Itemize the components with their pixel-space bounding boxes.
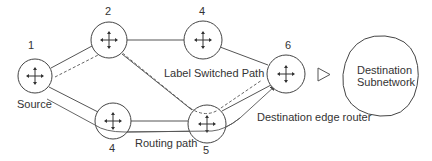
destination-subnetwork-label-line2: Subnetwork [357, 77, 415, 88]
forward-triangle-icon [318, 68, 330, 81]
router-node-4-top [184, 21, 222, 59]
link-1-2 [51, 46, 92, 68]
router-node-1 [18, 59, 52, 93]
label-switched-path-line [55, 50, 262, 114]
routing-path-line [47, 86, 275, 132]
link-5-6 [222, 85, 271, 111]
source-label: Source [17, 99, 52, 110]
destination-subnetwork-label-line1: Destination [357, 65, 412, 76]
router-node-4-bottom [95, 103, 131, 139]
node-6-number: 6 [285, 40, 291, 51]
router-node-6 [267, 55, 305, 93]
node-4-bottom-number: 4 [109, 143, 115, 154]
link-1-4bot [49, 87, 98, 112]
links [49, 40, 271, 121]
link-4top-6 [220, 47, 268, 65]
node-2-number: 2 [105, 6, 111, 17]
routing-path-label: Routing path [135, 138, 197, 149]
label-switched-path-label: Label Switched Path [164, 68, 264, 79]
router-node-2 [91, 22, 127, 58]
destination-edge-router-label: Destination edge router [257, 112, 371, 123]
node-5-number: 5 [203, 145, 209, 156]
node-4-top-number: 4 [199, 6, 205, 17]
node-1-number: 1 [28, 40, 34, 51]
